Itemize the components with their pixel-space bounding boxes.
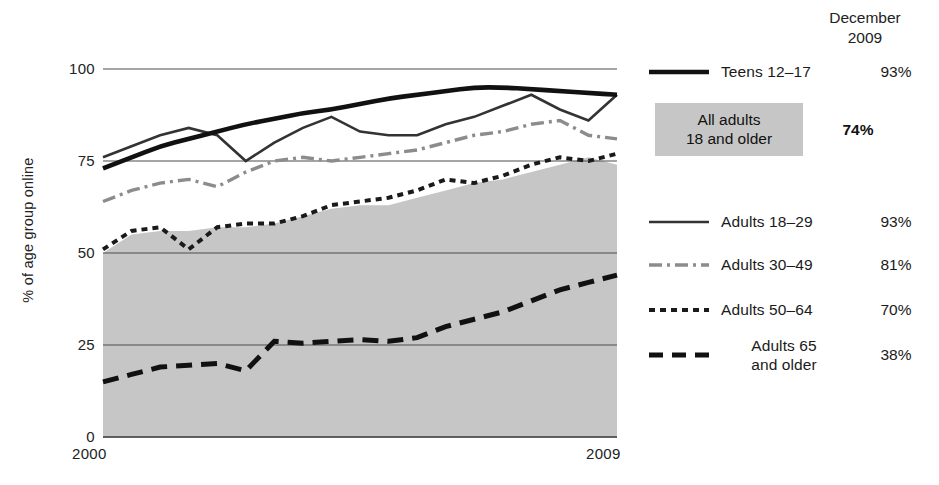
legend-header-month: December — [795, 8, 935, 28]
y-tick-label-100: 100 — [55, 60, 95, 77]
legend-all-adults-box: All adults 18 and older — [655, 103, 803, 156]
y-tick-label-0: 0 — [55, 428, 95, 445]
legend-item-all-adults: All adults 18 and older 74% — [645, 103, 939, 156]
legend-all-adults-line1: All adults — [655, 110, 803, 129]
legend-item-teens: Teens 12–17 93% — [645, 62, 939, 81]
legend-header: December 2009 — [795, 8, 935, 48]
legend-swatch-adults-65-older-icon — [645, 346, 715, 364]
legend-value-adults-18-29: 93% — [853, 213, 939, 231]
chart-svg — [0, 0, 640, 485]
y-axis-title: % of age group online — [20, 140, 36, 320]
legend-header-year: 2009 — [795, 28, 935, 48]
legend-label-teens: Teens 12–17 — [715, 62, 853, 81]
legend-value-adults-30-49: 81% — [853, 256, 939, 274]
legend-label-adults-50-64: Adults 50–64 — [715, 300, 853, 319]
legend-label-adults-18-29: Adults 18–29 — [715, 212, 853, 231]
legend-value-all-adults: 74% — [815, 121, 901, 139]
legend-label-adults-65-line1: Adults 65 — [715, 336, 853, 355]
legend-swatch-teens-icon — [645, 63, 715, 81]
legend-item-adults-30-49: Adults 30–49 81% — [645, 255, 939, 274]
legend-label-adults-65-line2: and older — [715, 355, 853, 374]
chart-plot-area: 100 75 50 25 0 2000 2009 % of age group … — [0, 0, 640, 485]
legend-item-adults-65-older: Adults 65 and older 38% — [645, 336, 939, 374]
legend-item-adults-18-29: Adults 18–29 93% — [645, 212, 939, 231]
legend-label-adults-30-49: Adults 30–49 — [715, 255, 853, 274]
legend-swatch-adults-30-49-icon — [645, 256, 715, 274]
legend-value-adults-65-older: 38% — [853, 346, 939, 364]
legend-all-adults-line2: 18 and older — [655, 129, 803, 148]
legend-value-teens: 93% — [853, 63, 939, 81]
y-tick-label-50: 50 — [55, 244, 95, 261]
y-tick-label-25: 25 — [55, 336, 95, 353]
legend-swatch-adults-18-29-icon — [645, 213, 715, 231]
x-tick-label-2000: 2000 — [72, 445, 107, 462]
legend-label-adults-65-older: Adults 65 and older — [715, 336, 853, 374]
y-tick-label-75: 75 — [55, 152, 95, 169]
x-tick-label-2009: 2009 — [586, 445, 621, 462]
chart-legend: December 2009 Teens 12–17 93% All adults… — [645, 0, 939, 485]
legend-item-adults-50-64: Adults 50–64 70% — [645, 300, 939, 319]
legend-value-adults-50-64: 70% — [853, 301, 939, 319]
chart-figure: 100 75 50 25 0 2000 2009 % of age group … — [0, 0, 939, 485]
legend-swatch-adults-50-64-icon — [645, 301, 715, 319]
